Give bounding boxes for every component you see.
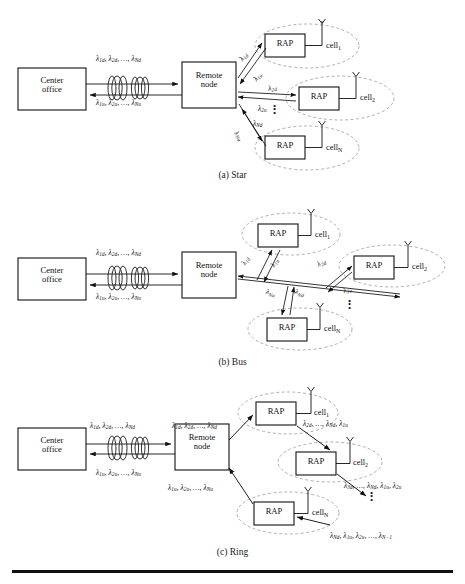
cell-label-an: cellN [326,143,342,153]
bottom-divider-rule [12,570,453,573]
ring-segment-1-label: λ2d, …, λNd, λ1u [303,419,348,428]
rap-label-a1: RAP [265,39,305,48]
antenna-icon-1 [296,387,314,414]
ring-segment-3-label: λNd, λ1u, λ2u, …, λN−1 [330,531,392,540]
center-office-label-b: Centeroffice [18,266,86,285]
cell-label-cn: cellN [312,508,328,518]
cell-label-c1: cell1 [314,408,329,418]
cell-label-b1: cell1 [315,230,330,240]
antenna-icon-n [305,121,325,148]
cell-label-a1: cell1 [326,41,341,51]
vertical-dots-a: ••• [273,105,276,115]
rap-label-c2: RAP [296,457,336,466]
antenna-icon-1 [298,209,314,236]
feeder-upstream-label-c: λ1u, λ2u, …, λNu [96,468,141,477]
remote-node-label-a: Remotenode [182,71,236,90]
rap-label-a2: RAP [299,92,339,101]
ring-link-rn-to-rap1 [229,415,253,440]
antenna-icon-n [307,303,323,330]
center-office-label-a: Centeroffice [18,76,86,95]
feeder-downstream-label-c: λ1d, λ2d, …, λNd [90,421,135,430]
cell-label-b2: cell2 [412,262,427,272]
feeder-downstream-label-b: λ1d, λ2d, …, λNd [96,248,141,257]
lambda-2u-label-a: λ2u [258,104,267,113]
antenna-icon-2 [394,241,411,268]
lambda-2d-label-a: λ2d [267,82,277,93]
fiber-spool-icon [108,436,149,460]
ring-link-rapn-to-rn [229,468,253,504]
star-topology-diagram [0,0,465,190]
bus-trunk-lower [238,279,400,297]
caption-star: (a) Star [0,170,465,180]
vertical-dots-b: ••• [348,300,351,310]
remote-node-label-c: Remotenode [175,433,229,452]
ring-link-prev-to-rapn [297,517,330,525]
center-office-label-c: Centeroffice [18,436,86,455]
feeder-upstream-label-b: λ1u, λ2u, …, λNu [96,292,141,301]
rap-label-b2: RAP [354,261,394,270]
rap-label-c1: RAP [256,407,296,416]
rap-label-bn: RAP [267,323,307,332]
ring-link-rap1-to-rap2 [297,426,330,450]
drop-downstream-label-c: λ1d, λ2d, …, λNd [172,421,217,430]
antenna-icon-1 [305,19,325,46]
bus-drop-n-up [290,287,294,315]
rap-label-cn: RAP [254,507,294,516]
feeder-downstream-label-a: λ1d, λ2d, …, λNd [96,54,141,63]
fiber-spool-icon [108,76,149,100]
lambda-Nd-label-a: λNd [253,119,263,128]
remote-node-label-b: Remotenode [182,261,236,280]
vertical-dots-c: ••• [370,492,373,502]
cell-label-c2: cell2 [353,458,368,468]
drop-upstream-label-c: λ1u, λ2u, …, λNu [168,483,213,492]
caption-bus: (b) Bus [0,357,465,367]
antenna-icon-2 [336,437,353,464]
rap-label-b1: RAP [258,229,298,238]
star-link-2-up [238,97,296,101]
cell-label-bn: cellN [324,324,340,334]
antenna-icon-n [294,487,311,514]
feeder-upstream-label-a: λ1u, λ2u, …, λNu [96,98,141,107]
fiber-spool-icon [108,266,149,290]
bus-drop-n-down [282,286,288,315]
figure-page: Centeroffice Remotenode RAP RAP RAP cell… [0,0,465,584]
rap-label-an: RAP [265,141,305,150]
cell-label-a2: cell2 [360,93,375,103]
caption-ring: (c) Ring [0,547,465,557]
